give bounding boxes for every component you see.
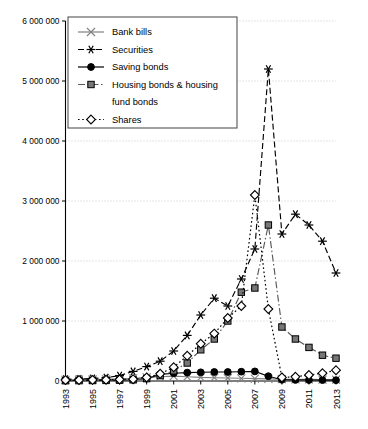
x-tick-label: 2013 <box>332 389 342 409</box>
data-point-marker <box>88 64 95 71</box>
y-tick-label: 0 <box>55 376 60 386</box>
y-tick-label: 2 000 000 <box>22 256 60 266</box>
series-line <box>66 225 337 381</box>
x-tick-label: 1993 <box>61 389 71 409</box>
data-point-marker <box>197 369 204 376</box>
data-point-marker <box>88 81 94 87</box>
x-tick-label: 2003 <box>196 389 206 409</box>
data-point-marker <box>196 311 205 319</box>
y-tick-label: 4 000 000 <box>22 136 60 146</box>
legend-label: fund bonds <box>112 97 158 107</box>
data-point-marker <box>265 373 272 380</box>
legend-item: fund bonds <box>112 97 158 107</box>
data-point-marker <box>251 368 258 375</box>
x-tick-label: 2009 <box>277 389 287 409</box>
data-point-marker <box>332 269 341 277</box>
data-point-marker <box>250 191 259 200</box>
y-tick-label: 6 000 000 <box>22 16 60 26</box>
legend-label: Saving bonds <box>112 62 169 72</box>
data-point-marker <box>184 369 191 376</box>
data-point-marker <box>238 368 245 375</box>
y-tick-label: 3 000 000 <box>22 196 60 206</box>
data-point-marker <box>224 369 231 376</box>
x-tick-label: 1999 <box>142 389 152 409</box>
data-point-marker <box>264 305 273 314</box>
y-tick-label: 5 000 000 <box>22 76 60 86</box>
legend-label: Housing bonds & housing <box>112 80 218 90</box>
chart-legend: Bank billsSecuritiesSaving bondsHousing … <box>68 17 237 128</box>
series-4 <box>62 222 339 384</box>
data-point-marker <box>142 363 151 371</box>
x-tick-label: 2005 <box>223 389 233 409</box>
data-point-marker <box>332 366 341 375</box>
data-point-marker <box>319 352 325 358</box>
data-point-marker <box>279 324 285 330</box>
x-tick-label: 1995 <box>88 389 98 409</box>
y-axis-labels-group: 01 000 0002 000 0003 000 0004 000 0005 0… <box>22 16 60 386</box>
data-point-marker <box>223 302 232 310</box>
x-tick-label: 2007 <box>250 389 260 409</box>
data-point-marker <box>333 355 339 361</box>
data-point-marker <box>211 369 218 376</box>
data-point-marker <box>306 344 312 350</box>
data-point-marker <box>292 336 298 342</box>
data-point-marker <box>318 237 327 245</box>
data-point-marker <box>183 332 192 340</box>
legend-label: Shares <box>112 115 142 125</box>
x-axis-labels-group: 1993199519971999200120032005200720092011… <box>61 389 342 409</box>
series-5 <box>61 191 340 385</box>
y-tick-label: 1 000 000 <box>22 316 60 326</box>
legend-item: Securities <box>78 45 153 55</box>
data-point-marker <box>183 351 192 360</box>
x-tick-label: 1997 <box>115 389 125 409</box>
data-point-marker <box>210 294 219 302</box>
data-point-marker <box>333 377 340 384</box>
legend-label: Bank bills <box>112 27 152 37</box>
legend-label: Securities <box>112 45 153 55</box>
data-point-marker <box>252 285 258 291</box>
chart-container: 01 000 0002 000 0003 000 0004 000 0005 0… <box>0 0 368 429</box>
data-point-marker <box>265 222 271 228</box>
line-chart: 01 000 0002 000 0003 000 0004 000 0005 0… <box>0 0 368 429</box>
x-tick-label: 2011 <box>304 389 314 408</box>
x-tick-label: 2001 <box>169 389 179 409</box>
